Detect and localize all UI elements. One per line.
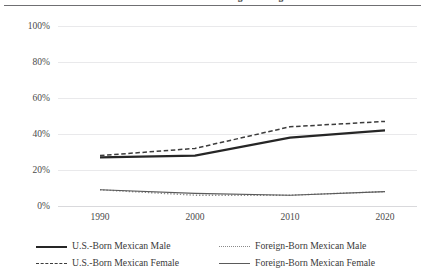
x-axis-tick-2000: 2000: [165, 212, 225, 223]
legend-item-label: U.S.-Born Mexican Male: [72, 240, 170, 251]
legend-item-label: Foreign-Born Mexican Male: [255, 240, 366, 251]
x-axis-tick-2010: 2010: [260, 212, 320, 223]
series-line: [100, 121, 385, 155]
legend-item-label: U.S.-Born Mexican Female: [72, 257, 179, 268]
legend-item-foreign-born-male[interactable]: Foreign-Born Mexican Male: [219, 237, 419, 254]
legend-item-us-born-male[interactable]: U.S.-Born Mexican Male: [36, 237, 221, 254]
series-line: [100, 130, 385, 157]
line-swatch-dotted-icon: [219, 241, 250, 251]
chart-legend: U.S.-Born Mexican Male U.S.-Born Mexican…: [0, 236, 425, 273]
line-swatch-dashed-icon: [36, 258, 67, 268]
chart-figure: Share with a Bachelor's Degree or Higher…: [0, 0, 425, 273]
x-axis-tick-1990: 1990: [70, 212, 130, 223]
line-swatch-solid-thick-icon: [36, 241, 67, 251]
legend-item-us-born-female[interactable]: U.S.-Born Mexican Female: [36, 254, 221, 271]
line-swatch-solid-thin-icon: [219, 258, 250, 268]
x-axis-tick-2020: 2020: [355, 212, 415, 223]
data-lines-layer: [0, 0, 425, 273]
legend-item-label: Foreign-Born Mexican Female: [255, 257, 375, 268]
legend-item-foreign-born-female[interactable]: Foreign-Born Mexican Female: [219, 254, 419, 271]
